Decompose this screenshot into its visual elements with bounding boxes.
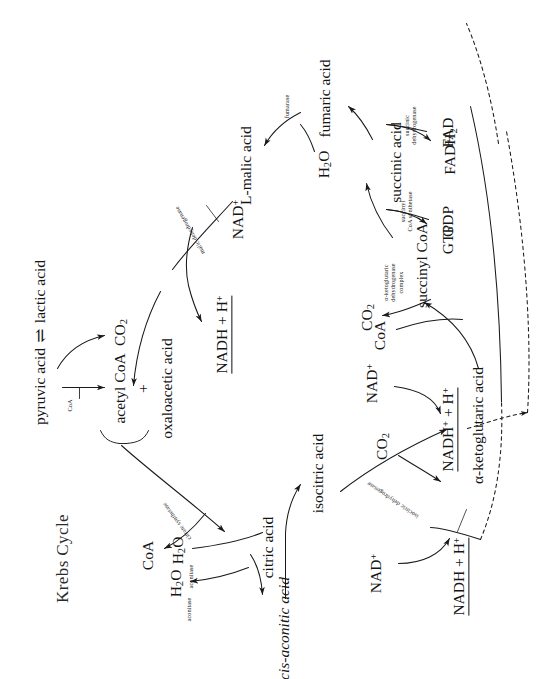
label-succinyl-coa: succinyl CoA <box>414 223 430 308</box>
label-coa-released: CoA <box>140 540 156 569</box>
enzyme-aconitase-2: aconitase <box>186 564 193 588</box>
label-co2-akg: CO2 <box>358 304 375 331</box>
enzyme-fumarase: fumarase <box>282 94 289 117</box>
label-isocitric-acid: isocitric acid <box>310 433 326 513</box>
label-co2-isocitric: CO2 <box>373 433 390 460</box>
label-nad-malic: NAD+ <box>230 199 246 238</box>
label-h2o-aconitase-in: H2O <box>169 536 186 564</box>
label-nadh-isocitric: NADH + H+ <box>451 537 467 615</box>
label-h2o-fumarase: H2O <box>315 150 332 178</box>
label-nadh-akg: NADH+ + H+ <box>440 387 456 471</box>
label-l-malic-acid: L-malic acid <box>238 126 254 205</box>
label-nad-akg: NAD+ <box>364 363 380 402</box>
label-acetyl-coa: acetyl CoA <box>112 353 128 423</box>
enzyme-alpha-ketoglutarate-dehydrogenase-complex: α-ketoglutaric dehydrogenase complex <box>381 263 403 301</box>
label-fumaric-acid: fumaric acid <box>317 59 333 137</box>
equilibrium-arrow-symbol: ⇌ <box>31 328 49 342</box>
label-oxaloacetic-acid: oxaloacetic acid <box>159 338 175 438</box>
label-co2-pyruvate: CO2 <box>111 319 128 346</box>
label-alpha-ketoglutaric-acid: α-ketoglutaric acid <box>470 367 486 484</box>
enzyme-aconitase-1: aconitase <box>184 597 191 621</box>
label-cis-aconitic-acid: cis-aconitic acid <box>276 577 292 679</box>
label-citric-acid: citric acid <box>260 516 276 578</box>
label-lactic-acid: lactic acid <box>32 259 48 322</box>
label-nad-isocitric: NAD+ <box>368 553 384 592</box>
diagram-title: Krebs Cycle <box>53 514 71 603</box>
label-nadh-malic: NADH + H+ <box>214 295 230 373</box>
label-pyruvic-acid: pyruvic acid <box>32 347 48 424</box>
label-plus-sign: + <box>135 384 151 393</box>
label-gtp: GTP <box>440 224 456 253</box>
enzyme-coa-transfer: CoA <box>67 399 74 411</box>
enzyme-succinic-dehydrogenase: succinic dehydrogenase <box>403 106 418 144</box>
label-h2o-aconitase-out: H2O <box>167 569 184 597</box>
label-fadh2: FADH2 <box>441 128 458 174</box>
label-succinic-acid: succinic acid <box>388 122 404 202</box>
